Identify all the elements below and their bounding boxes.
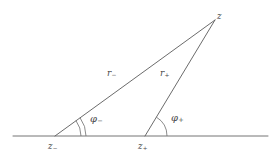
vertex-label-z-minus: z− — [48, 142, 57, 151]
diagram-canvas — [0, 0, 280, 159]
side-left-sub: − — [111, 71, 116, 78]
geometry-figure: z z− z+ r− r+ φ− φ+ — [0, 0, 280, 159]
apex-label-base: z — [217, 11, 221, 21]
angle-left-sub: − — [97, 117, 103, 125]
apex-label-z: z — [217, 12, 221, 21]
vertex-left-sub: − — [53, 145, 58, 151]
angle-label-phi-plus: φ+ — [171, 113, 184, 123]
vertex-right-sub: + — [143, 145, 148, 151]
angle-right-sub: + — [178, 116, 184, 124]
vertex-label-z-plus: z+ — [138, 142, 147, 151]
vertex-left-base: z — [48, 141, 52, 151]
side-label-r-plus: r+ — [160, 69, 169, 78]
angle-arc-phi-minus-inner — [76, 121, 81, 136]
ray-r-minus — [55, 20, 215, 136]
angle-arc-phi-plus — [156, 117, 167, 136]
angle-right-base: φ — [171, 112, 178, 123]
vertex-right-base: z — [138, 141, 142, 151]
angle-left-base: φ — [90, 113, 97, 124]
side-right-sub: + — [164, 71, 169, 78]
angle-label-phi-minus: φ− — [90, 114, 103, 124]
side-label-r-minus: r− — [107, 69, 116, 78]
